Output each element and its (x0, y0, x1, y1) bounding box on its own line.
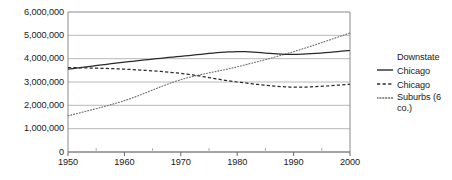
legend-label-downstate: Downstate (397, 52, 452, 64)
x-tick-label: 1980 (217, 158, 257, 167)
legend-label-chicago-suburbs: Chicago (397, 80, 452, 92)
legend-item-chicago: Chicago (377, 66, 452, 78)
legend-swatch-solid-icon (377, 57, 393, 59)
x-tick-label: 2000 (330, 158, 370, 167)
legend-label-chicago: Chicago (397, 66, 452, 78)
x-tick-label: 1950 (48, 158, 88, 167)
legend-swatch-dashed-icon (377, 71, 393, 73)
legend-item-downstate: Downstate (377, 52, 452, 64)
population-line-chart: 6,000,000 5,000,000 4,000,000 3,000,000 … (0, 0, 452, 180)
x-tick-label: 1990 (274, 158, 314, 167)
legend-item-chicago-suburbs: Chicago Suburbs (6 co.) (377, 80, 452, 115)
x-tick-label: 1970 (161, 158, 201, 167)
chart-legend: Downstate Chicago Chicago Suburbs (6 co.… (377, 52, 452, 117)
x-tick-label: 1960 (104, 158, 144, 167)
legend-swatch-dotted-icon (377, 85, 393, 87)
legend-label-chicago-suburbs-line2: Suburbs (6 co.) (397, 92, 452, 115)
